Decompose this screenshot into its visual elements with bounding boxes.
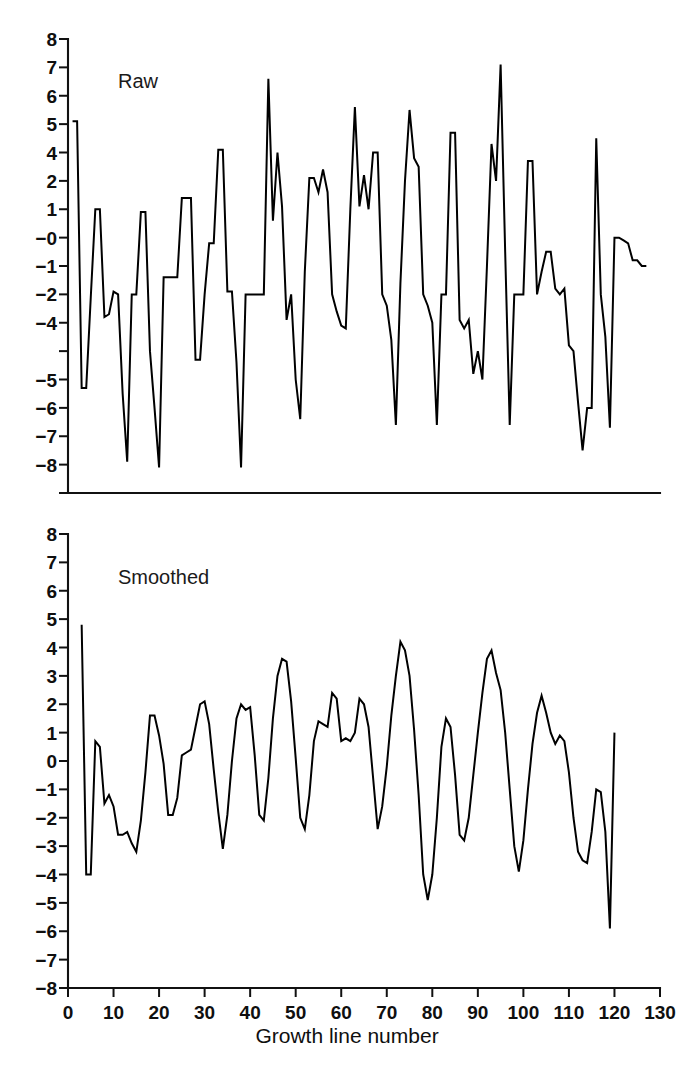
y-tick-label: 6: [46, 86, 57, 107]
y-tick-label: −8: [35, 978, 57, 999]
y-tick-label: 0: [46, 751, 57, 772]
x-tick-label: 20: [149, 1002, 170, 1023]
x-tick-label: 50: [285, 1002, 306, 1023]
y-tick-label: 8: [46, 29, 57, 50]
x-tick-label: 60: [331, 1002, 352, 1023]
figure-background: [0, 0, 694, 1080]
y-tick-label: 5: [46, 114, 57, 135]
y-tick-label: −5: [35, 893, 57, 914]
y-tick-label: −6: [35, 398, 57, 419]
x-tick-label: 40: [240, 1002, 261, 1023]
x-tick-label: 80: [422, 1002, 443, 1023]
y-tick-label: −5: [35, 370, 57, 391]
x-tick-label: 0: [63, 1002, 74, 1023]
y-tick-label: −7: [35, 426, 57, 447]
y-tick-label: 1: [46, 199, 57, 220]
x-tick-label: 30: [194, 1002, 215, 1023]
growth-line-figure: Raw 8765421−0−1−2−4−5−6−7−8 Smoothed 876…: [0, 0, 694, 1080]
panel-title-raw: Raw: [118, 70, 159, 92]
y-tick-label: 4: [46, 143, 57, 164]
y-tick-label: −2: [35, 284, 57, 305]
y-tick-label: −3: [35, 836, 57, 857]
y-tick-label: 1: [46, 723, 57, 744]
x-tick-label: 90: [467, 1002, 488, 1023]
y-tick-label: −0: [35, 228, 57, 249]
y-tick-label: −1: [35, 779, 57, 800]
x-axis-title: Growth line number: [255, 1024, 438, 1047]
x-tick-label: 70: [376, 1002, 397, 1023]
y-tick-label: −6: [35, 921, 57, 942]
x-tick-label: 120: [599, 1002, 631, 1023]
y-tick-label: 8: [46, 524, 57, 545]
y-tick-label: −4: [35, 865, 57, 886]
y-tick-label: −1: [35, 256, 57, 277]
y-tick-label: 5: [46, 609, 57, 630]
y-tick-label: 7: [46, 552, 57, 573]
y-tick-label: 4: [46, 638, 57, 659]
y-tick-label: 7: [46, 57, 57, 78]
x-tick-label: 110: [554, 1002, 585, 1023]
y-tick-label: 3: [46, 666, 57, 687]
y-tick-label: −8: [35, 455, 57, 476]
y-tick-label: −7: [35, 950, 57, 971]
y-tick-label: 2: [46, 694, 57, 715]
y-tick-label: −2: [35, 808, 57, 829]
panel-title-smoothed: Smoothed: [118, 566, 209, 588]
x-tick-label: 130: [644, 1002, 676, 1023]
y-tick-label: −4: [35, 313, 57, 334]
x-tick-label: 10: [103, 1002, 124, 1023]
x-tick-label: 100: [508, 1002, 540, 1023]
y-tick-label: 2: [46, 171, 57, 192]
y-tick-label: 6: [46, 581, 57, 602]
